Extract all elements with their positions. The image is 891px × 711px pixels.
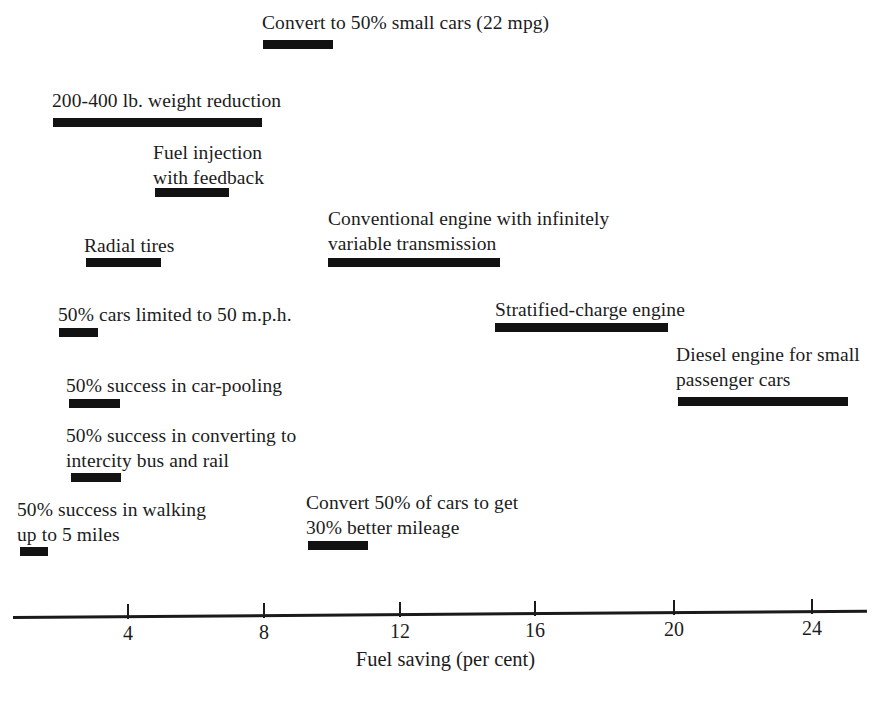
x-axis-tick-8 bbox=[263, 603, 265, 618]
bar-cars-limited-50-mph bbox=[59, 328, 98, 337]
label-walking-5-miles: 50% success in walking up to 5 miles bbox=[17, 497, 206, 547]
x-axis-line bbox=[13, 610, 867, 619]
bar-weight-reduction bbox=[53, 118, 262, 127]
x-axis-tick-label-8: 8 bbox=[244, 621, 284, 644]
label-cars-limited-50-mph: 50% cars limited to 50 m.p.h. bbox=[58, 302, 292, 327]
x-axis-tick-label-16: 16 bbox=[515, 619, 555, 642]
bar-fuel-injection-feedback bbox=[155, 188, 229, 197]
x-axis-tick-12 bbox=[399, 602, 401, 617]
label-stratified-charge-engine: Stratified-charge engine bbox=[495, 297, 685, 322]
x-axis-tick-24 bbox=[811, 599, 813, 614]
label-radial-tires: Radial tires bbox=[84, 233, 175, 258]
x-axis-title: Fuel saving (per cent) bbox=[0, 648, 891, 671]
label-convert-30-better-mileage: Convert 50% of cars to get 30% better mi… bbox=[306, 490, 518, 540]
label-car-pooling: 50% success in car-pooling bbox=[66, 373, 282, 398]
x-axis-tick-16 bbox=[534, 601, 536, 616]
label-weight-reduction: 200-400 lb. weight reduction bbox=[52, 88, 281, 113]
x-axis-tick-label-24: 24 bbox=[792, 617, 832, 640]
bar-walking-5-miles bbox=[20, 547, 48, 556]
bar-convert-30-better-mileage bbox=[308, 541, 368, 550]
bar-stratified-charge-engine bbox=[495, 323, 668, 332]
label-intercity-bus-rail: 50% success in converting to intercity b… bbox=[66, 423, 296, 473]
fuel-saving-range-chart: Convert to 50% small cars (22 mpg) 200-4… bbox=[0, 0, 891, 711]
label-convert-50-small-cars: Convert to 50% small cars (22 mpg) bbox=[262, 10, 549, 35]
x-axis-tick-label-12: 12 bbox=[380, 620, 420, 643]
label-conventional-engine-ivt: Conventional engine with infinitely vari… bbox=[328, 206, 609, 256]
x-axis-tick-label-4: 4 bbox=[108, 622, 148, 645]
x-axis-tick-label-20: 20 bbox=[654, 618, 694, 641]
bar-intercity-bus-rail bbox=[71, 473, 121, 482]
bar-car-pooling bbox=[69, 399, 120, 408]
x-axis-tick-20 bbox=[673, 600, 675, 615]
label-fuel-injection-feedback: Fuel injection with feedback bbox=[153, 140, 264, 190]
bar-convert-50-small-cars bbox=[263, 40, 333, 49]
label-diesel-engine-small-cars: Diesel engine for small passenger cars bbox=[676, 342, 860, 392]
bar-diesel-engine-small-cars bbox=[678, 397, 848, 406]
bar-conventional-engine-ivt bbox=[328, 258, 500, 267]
x-axis-tick-4 bbox=[127, 604, 129, 619]
bar-radial-tires bbox=[86, 258, 161, 267]
